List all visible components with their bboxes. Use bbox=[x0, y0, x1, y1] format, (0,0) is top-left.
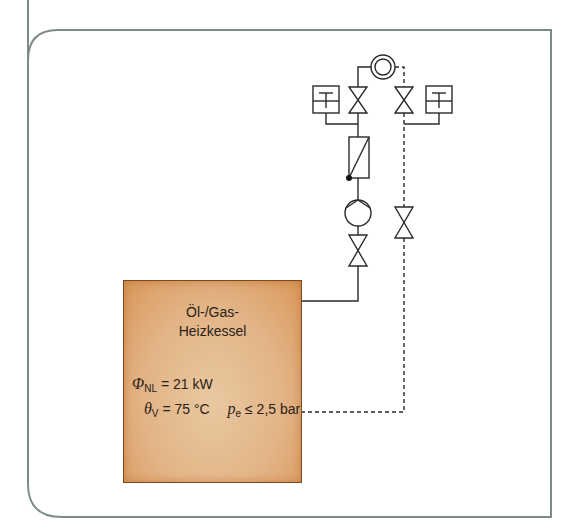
heat-output-formula: ΦNL = 21 kW bbox=[132, 375, 213, 394]
theta-value: = 75 °C bbox=[162, 401, 209, 417]
phi-symbol: Φ bbox=[132, 375, 144, 392]
phi-value: = 21 kW bbox=[161, 376, 213, 392]
filter-icon bbox=[346, 137, 369, 181]
consumer-icon bbox=[371, 55, 395, 79]
thermometer-left-connection bbox=[326, 113, 358, 124]
thermometer-right-connection bbox=[404, 113, 439, 124]
p-value: ≤ 2,5 bar bbox=[245, 401, 300, 417]
valve-icon bbox=[395, 87, 413, 113]
valve-icon bbox=[349, 235, 367, 266]
thermometer-icon bbox=[426, 86, 452, 113]
p-subscript: e bbox=[236, 408, 242, 419]
boiler: Öl-/Gas- Heizkessel ΦNL = 21 kW θV = 75 … bbox=[123, 280, 302, 483]
flow-pipe-boiler bbox=[302, 266, 358, 301]
boiler-title-line1: Öl-/Gas- bbox=[124, 303, 301, 322]
valve-icon bbox=[349, 87, 367, 113]
pump-icon bbox=[345, 200, 371, 226]
p-symbol: p bbox=[228, 400, 236, 417]
phi-subscript: NL bbox=[144, 383, 157, 394]
valve-icon bbox=[395, 207, 413, 238]
return-pipe-top bbox=[395, 67, 404, 87]
temperature-pressure-formula: θV = 75 °C pe ≤ 2,5 bar bbox=[144, 400, 300, 419]
thermometer-icon bbox=[313, 86, 339, 113]
flow-pipe-top bbox=[358, 67, 371, 87]
boiler-title-line2: Heizkessel bbox=[124, 322, 301, 341]
theta-symbol: θ bbox=[144, 400, 152, 417]
theta-subscript: V bbox=[152, 408, 159, 419]
